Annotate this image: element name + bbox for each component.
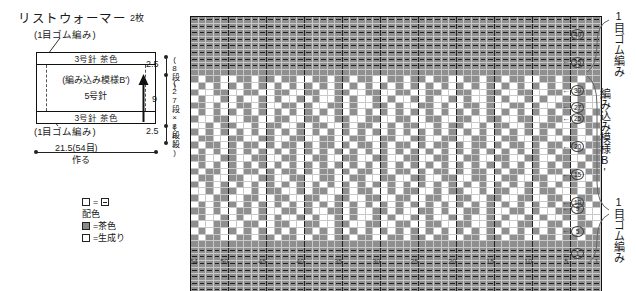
chart-cell bbox=[547, 69, 555, 76]
chart-row bbox=[191, 129, 601, 136]
chart-cell bbox=[221, 228, 229, 235]
chart-cell bbox=[434, 175, 442, 182]
chart-cell bbox=[289, 228, 297, 235]
chart-cell bbox=[236, 287, 244, 291]
chart-cell bbox=[358, 122, 366, 129]
chart-cell bbox=[373, 49, 381, 56]
chart-row bbox=[191, 76, 601, 83]
chart-row bbox=[191, 201, 601, 208]
chart-cell bbox=[532, 115, 540, 122]
column-tick-label: 20 bbox=[448, 258, 456, 265]
chart-cell bbox=[304, 241, 312, 248]
chart-cell bbox=[509, 63, 517, 70]
chart-cell bbox=[335, 274, 343, 281]
chart-cell bbox=[342, 109, 350, 116]
chart-cell bbox=[441, 201, 449, 208]
chart-cell bbox=[327, 89, 335, 96]
chart-cell bbox=[502, 102, 510, 109]
chart-cell bbox=[327, 214, 335, 221]
row-direction-arrow-icon: ← bbox=[562, 87, 570, 95]
chart-cell bbox=[274, 221, 282, 228]
chart-cell bbox=[259, 36, 267, 43]
chart-cell bbox=[251, 89, 259, 96]
chart-cell bbox=[434, 63, 442, 70]
chart-cell bbox=[380, 188, 388, 195]
chart-cell bbox=[509, 241, 517, 248]
chart-row bbox=[191, 30, 601, 37]
chart-cell bbox=[320, 23, 328, 30]
chart-cell bbox=[274, 142, 282, 149]
chart-cell bbox=[198, 175, 206, 182]
chart-cell bbox=[244, 63, 252, 70]
chart-cell bbox=[487, 43, 495, 50]
chart-cell bbox=[213, 162, 221, 169]
chart-cell bbox=[426, 102, 434, 109]
chart-cell bbox=[411, 155, 419, 162]
knitting-chart-grid[interactable] bbox=[190, 16, 602, 291]
chart-cell bbox=[388, 129, 396, 136]
chart-cell bbox=[426, 168, 434, 175]
chart-cell bbox=[502, 115, 510, 122]
chart-cell bbox=[479, 287, 487, 291]
chart-cell bbox=[289, 162, 297, 169]
chart-cell bbox=[396, 208, 404, 215]
chart-cell bbox=[411, 43, 419, 50]
chart-cell bbox=[191, 135, 198, 142]
chart-cell bbox=[259, 102, 267, 109]
chart-cell bbox=[274, 82, 282, 89]
chart-cell bbox=[464, 201, 472, 208]
chart-cell bbox=[509, 115, 517, 122]
chart-cell bbox=[320, 76, 328, 83]
chart-cell bbox=[206, 36, 214, 43]
chart-cell bbox=[365, 241, 373, 248]
chart-cell bbox=[304, 23, 312, 30]
chart-cell bbox=[213, 49, 221, 56]
legend-row-natural: =生成り bbox=[82, 232, 125, 244]
chart-cell bbox=[304, 188, 312, 195]
chart-cell bbox=[509, 162, 517, 169]
chart-cell bbox=[342, 122, 350, 129]
chart-cell bbox=[198, 287, 206, 291]
chart-cell bbox=[312, 49, 320, 56]
chart-cell bbox=[259, 280, 267, 287]
chart-row bbox=[191, 43, 601, 50]
chart-cell bbox=[502, 195, 510, 202]
chart-cell bbox=[502, 181, 510, 188]
chart-cell bbox=[266, 195, 274, 202]
column-tick-label: 25 bbox=[410, 258, 418, 265]
chart-cell bbox=[411, 287, 419, 291]
chart-cell bbox=[213, 82, 221, 89]
row-number-badge: 30 bbox=[571, 85, 584, 96]
chart-cell bbox=[380, 109, 388, 116]
chart-cell bbox=[487, 155, 495, 162]
chart-cell bbox=[380, 155, 388, 162]
chart-cell bbox=[312, 148, 320, 155]
chart-cell bbox=[388, 181, 396, 188]
chart-cell bbox=[213, 168, 221, 175]
chart-cell bbox=[396, 214, 404, 221]
chart-cell bbox=[509, 30, 517, 37]
chart-cell bbox=[259, 221, 267, 228]
chart-cell bbox=[327, 208, 335, 215]
chart-cell bbox=[540, 195, 548, 202]
chart-cell bbox=[259, 234, 267, 241]
chart-cell bbox=[228, 135, 236, 142]
chart-row bbox=[191, 287, 601, 291]
chart-cell bbox=[228, 162, 236, 169]
chart-cell bbox=[282, 228, 290, 235]
chart-cell bbox=[403, 63, 411, 70]
chart-cell bbox=[517, 82, 525, 89]
chart-cell bbox=[494, 181, 502, 188]
chart-cell bbox=[206, 214, 214, 221]
chart-cell bbox=[236, 122, 244, 129]
chart-cell bbox=[403, 43, 411, 50]
chart-cell bbox=[494, 142, 502, 149]
chart-cell bbox=[449, 162, 457, 169]
chart-cell bbox=[251, 175, 259, 182]
chart-cell bbox=[206, 195, 214, 202]
chart-cell bbox=[259, 63, 267, 70]
chart-column-ruler: 5450454035302520151051 bbox=[190, 258, 600, 270]
chart-cell bbox=[266, 175, 274, 182]
chart-cell bbox=[547, 188, 555, 195]
chart-cell bbox=[487, 142, 495, 149]
